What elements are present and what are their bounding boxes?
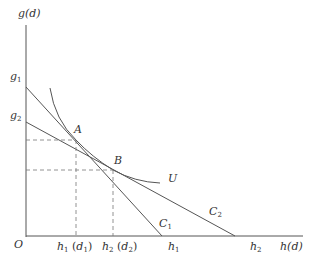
x-axis-label: h(d) [280,241,303,252]
x-label-h2-d2: h2 (d2) [102,241,137,254]
diagram-canvas [0,0,316,261]
y-axis-label: g(d) [18,8,41,19]
c2-sub: 2 [217,211,221,219]
line-c2-label: C2 [209,206,222,219]
origin-label: O [14,239,23,250]
line-c1 [26,87,162,236]
x-intercept-h2: h2 [250,241,262,254]
g1-sub: 1 [17,76,21,84]
y-intercept-g2: g2 [10,110,22,123]
curve-u [50,88,160,183]
h2-intercept-sub: 2 [257,246,261,254]
g2-sub: 2 [17,115,21,123]
point-b-label: B [114,155,122,166]
h1-intercept-sub: 1 [175,246,179,254]
y-intercept-g1: g1 [10,71,22,84]
c1-sub: 1 [167,223,171,231]
point-a-label: A [74,124,82,135]
line-c1-label: C1 [159,218,172,231]
curve-u-label: U [168,173,177,184]
paren-close: ) [88,240,92,253]
g1-base: g [10,70,17,83]
line-c2 [26,122,235,236]
g2-base: g [10,109,17,122]
x-intercept-h1: h1 [168,241,180,254]
x-label-h1-d1: h1 (d1) [57,241,92,254]
paren-close: ) [133,240,137,253]
